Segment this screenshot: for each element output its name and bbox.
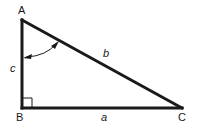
vertex-label-a: A	[18, 5, 25, 16]
vertex-label-b: B	[16, 112, 23, 123]
side-label-c: c	[10, 63, 16, 74]
side-b-line	[22, 20, 182, 108]
right-triangle-diagram	[0, 0, 197, 133]
vertex-label-c: C	[178, 112, 186, 123]
arc-arrowhead-left-icon	[23, 54, 32, 59]
side-label-b: b	[103, 48, 109, 59]
side-label-a: a	[101, 112, 107, 123]
